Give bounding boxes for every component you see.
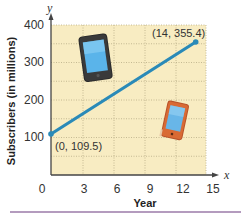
svg-text:6: 6 — [114, 182, 121, 196]
annotation-start: (0, 109.5) — [55, 140, 102, 152]
x-tick-labels: 0 3 6 9 12 15 — [39, 182, 220, 196]
svg-text:200: 200 — [24, 93, 44, 107]
svg-text:400: 400 — [24, 18, 44, 32]
svg-text:15: 15 — [206, 182, 220, 196]
y-axis-var: y — [46, 1, 53, 15]
x-axis-title: Year — [133, 197, 157, 209]
y-tick-labels: 100 200 300 400 — [24, 18, 44, 144]
svg-text:300: 300 — [24, 55, 44, 69]
svg-text:12: 12 — [176, 182, 190, 196]
svg-text:9: 9 — [147, 182, 154, 196]
svg-text:0: 0 — [39, 182, 46, 196]
svg-text:100: 100 — [24, 130, 44, 144]
svg-text:3: 3 — [81, 182, 88, 196]
y-axis-title: Subscribers (in millions) — [5, 36, 17, 165]
x-axis-var: x — [223, 168, 230, 182]
annotation-end: (14, 355.4) — [152, 27, 205, 39]
chart: y x 100 200 300 400 0 3 6 9 12 15 Year S… — [0, 0, 241, 214]
data-point-start — [48, 131, 54, 137]
data-point-end — [193, 39, 199, 45]
x-axis-arrow-icon — [212, 173, 219, 178]
